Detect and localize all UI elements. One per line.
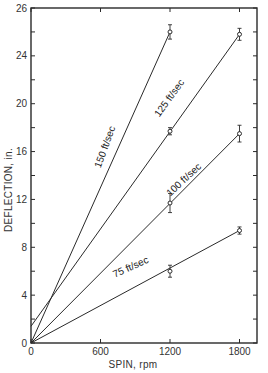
- plot-border: [31, 8, 257, 343]
- y-tick-label: 12: [16, 194, 28, 205]
- x-tick-label: 600: [92, 346, 109, 357]
- series-label: 100 ft/sec: [164, 161, 203, 199]
- x-tick-label: 0: [28, 346, 34, 357]
- data-point-marker: [238, 32, 242, 36]
- series-line: [31, 231, 240, 343]
- series-line: [31, 134, 240, 343]
- data-point-marker: [168, 30, 172, 34]
- series-labels: 150 ft/sec125 ft/sec100 ft/sec75 ft/sec: [92, 77, 203, 279]
- data-points: [168, 25, 242, 277]
- x-tick-label: 1800: [228, 346, 251, 357]
- y-tick-label: 24: [16, 50, 28, 61]
- series-label: 125 ft/sec: [152, 77, 186, 119]
- series-label: 150 ft/sec: [92, 125, 117, 170]
- y-axis-title: DEFLECTION, in.: [3, 148, 14, 232]
- data-point-marker: [168, 129, 172, 133]
- plot-frame: [31, 8, 257, 343]
- series-line: [31, 34, 240, 326]
- data-point-marker: [238, 229, 242, 233]
- y-tick-label: 20: [16, 98, 28, 109]
- y-tick-label: 8: [21, 242, 27, 253]
- deflection-vs-spin-chart: 0481216202426 060012001800 150 ft/sec125…: [0, 0, 268, 373]
- y-tick-label: 0: [21, 338, 27, 349]
- y-tick-label: 16: [16, 146, 28, 157]
- y-tick-label: 4: [21, 290, 27, 301]
- x-axis-title: SPIN, rpm: [109, 359, 158, 370]
- series-label: 75 ft/sec: [111, 254, 150, 279]
- data-point-marker: [168, 201, 172, 205]
- x-tick-label: 1200: [159, 346, 182, 357]
- y-tick-label: 26: [16, 3, 28, 14]
- data-point-marker: [168, 269, 172, 273]
- series-lines: [31, 32, 240, 343]
- x-axis-ticks: 060012001800: [28, 8, 251, 357]
- data-point-marker: [238, 132, 242, 136]
